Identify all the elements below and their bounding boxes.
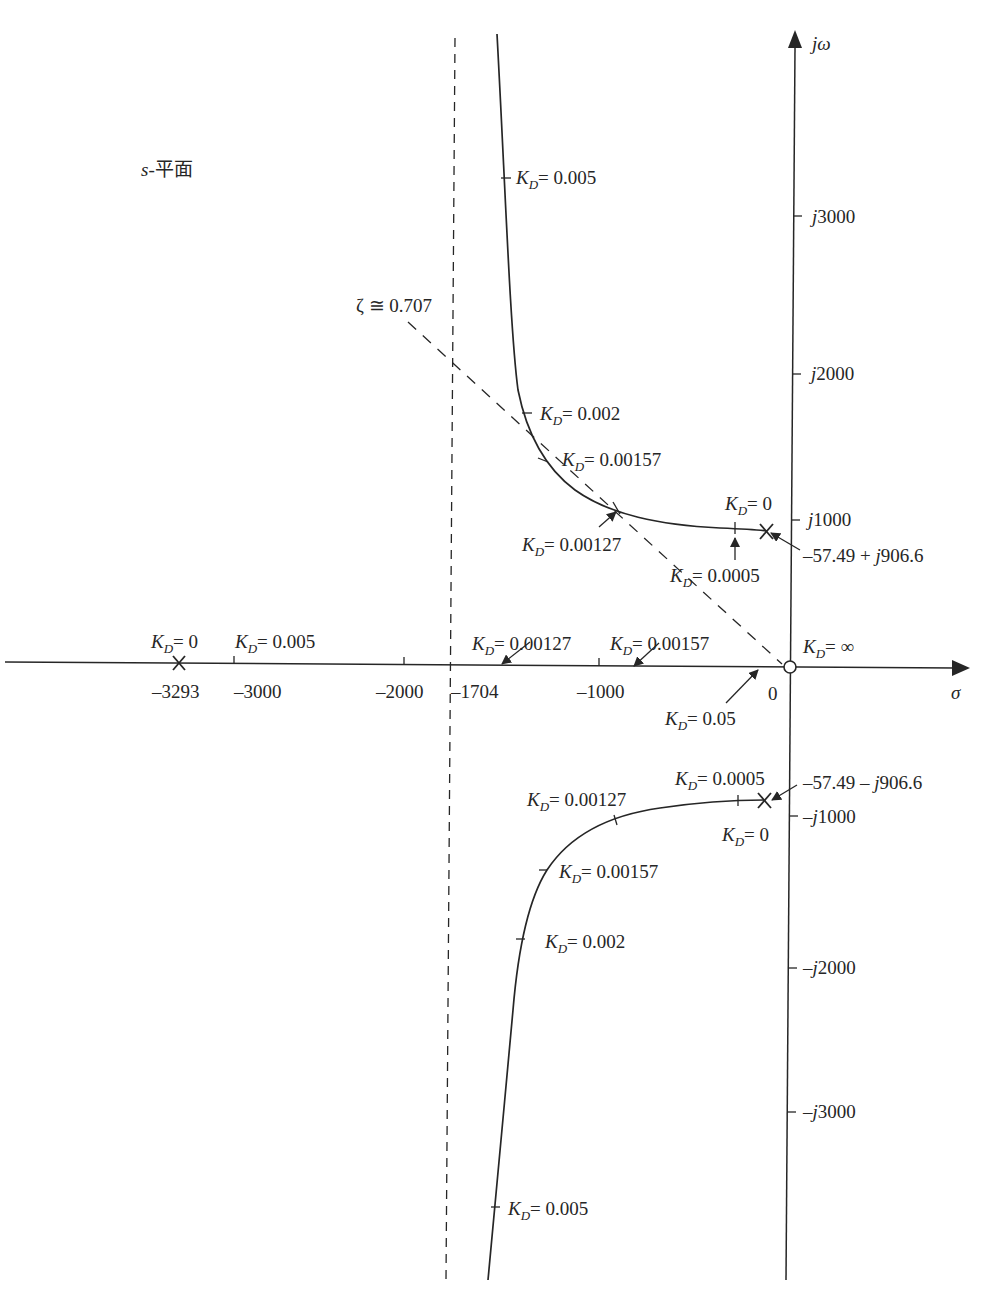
pole-upper-label: –57.49 + j906.6 (803, 546, 924, 565)
kd-label-real-pole: KD= 0 (151, 632, 198, 651)
sigma-axis (5, 662, 955, 668)
plane-label: s-平面 (141, 160, 193, 179)
kd-label-lower-000157: KD= 0.00157 (559, 862, 658, 881)
y-tick-label: –j1000 (803, 807, 856, 826)
kd-label-real-005: KD= 0.05 (665, 709, 736, 728)
arrow-icon (772, 785, 797, 800)
kd-label-lower-pole: KD= 0 (722, 825, 769, 844)
kd-label-lower-000127: KD= 0.00127 (527, 790, 626, 809)
upper-gain-ticks (501, 178, 735, 534)
kd-label-zero-inf: KD= ∞ (803, 637, 854, 656)
arrow-icon (726, 670, 758, 703)
sigma-axis-arrowhead-icon (952, 660, 970, 676)
kd-label-upper-000127: KD= 0.00127 (522, 535, 621, 554)
kd-label-real-000157: KD= 0.00157 (610, 634, 709, 653)
kd-label-upper-0002: KD= 0.002 (540, 404, 620, 423)
x-tick-label: –3293 (152, 682, 200, 701)
zero-marker-icon (784, 661, 796, 673)
asymptote-line (446, 38, 455, 1280)
pole-marker-icon (760, 524, 773, 539)
zeta-label: ζ ≅ 0.707 (356, 296, 432, 315)
kd-label-upper-000157: KD= 0.00157 (562, 450, 661, 469)
x-tick-label: –3000 (234, 682, 282, 701)
y-tick-label: –j3000 (803, 1102, 856, 1121)
x-tick-label: 0 (768, 684, 778, 703)
kd-label-lower-0002: KD= 0.002 (545, 932, 625, 951)
x-tick-label: –2000 (376, 682, 424, 701)
kd-label-upper-00005: KD= 0.0005 (670, 566, 760, 585)
y-tick-label: j1000 (808, 510, 851, 529)
arrow-icon (771, 533, 800, 550)
arrow-icon (599, 512, 616, 527)
y-tick-label: j3000 (812, 207, 855, 226)
kd-label-upper-0005: KD= 0.005 (516, 168, 596, 187)
kd-label-upper-pole: KD= 0 (725, 494, 772, 513)
jw-axis-arrowhead-icon (788, 30, 802, 48)
lower-gain-ticks (491, 795, 738, 1207)
kd-label-lower-0005: KD= 0.005 (508, 1199, 588, 1218)
pole-lower-label: –57.49 – j906.6 (803, 773, 922, 792)
x-tick-label: –1000 (577, 682, 625, 701)
jw-axis-label: jω (812, 34, 831, 53)
sigma-axis-label: σ (951, 683, 960, 702)
kd-label-lower-00005: KD= 0.0005 (675, 769, 765, 788)
kd-label-real-0005: KD= 0.005 (235, 632, 315, 651)
x-tick-label: –1704 (451, 682, 499, 701)
y-tick-label: –j2000 (803, 958, 856, 977)
y-tick-label: j2000 (811, 364, 854, 383)
kd-label-real-000127: KD= 0.00127 (472, 634, 571, 653)
